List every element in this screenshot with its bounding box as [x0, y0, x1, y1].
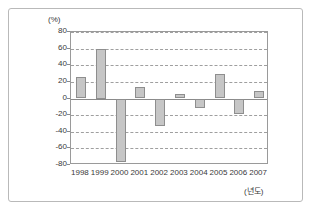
y-tick-label: -40 [45, 127, 67, 135]
bar-1998 [76, 77, 86, 99]
y-tick-mark [67, 31, 70, 32]
y-tick-mark [67, 81, 70, 82]
x-tick-label-2002: 2002 [148, 168, 170, 178]
x-tick-label-1998: 1998 [69, 168, 91, 178]
x-tick-label-2006: 2006 [227, 168, 249, 178]
x-tick-label-2007: 2007 [247, 168, 269, 178]
y-axis-tick-labels: 806040200-20-40-60-80 [44, 31, 67, 164]
x-tick-label-2003: 2003 [168, 168, 190, 178]
bar-1999 [96, 49, 106, 99]
x-tick-label-2001: 2001 [128, 168, 150, 178]
y-tick-label: -60 [45, 143, 67, 151]
y-tick-label: 40 [45, 60, 67, 68]
y-tick-mark [67, 131, 70, 132]
y-axis-unit-label: (%) [48, 15, 60, 24]
x-axis-unit-label: (년도) [244, 185, 263, 196]
x-axis-tick-labels: 1998199920002001200220032004200520062007 [70, 168, 268, 180]
bar-2002 [155, 99, 165, 126]
bar-2006 [234, 99, 244, 115]
gridline [71, 32, 267, 33]
figure-container: (%) 806040200-20-40-60-80 19981999200020… [0, 0, 314, 212]
x-tick-label-2004: 2004 [188, 168, 210, 178]
x-tick-label-1999: 1999 [89, 168, 111, 178]
y-tick-mark [67, 64, 70, 65]
bar-2005 [215, 74, 225, 99]
y-tick-mark [67, 98, 70, 99]
gridline [71, 132, 267, 133]
bar-2007 [254, 91, 264, 98]
x-tick-label-2000: 2000 [109, 168, 131, 178]
y-tick-label: 20 [45, 77, 67, 85]
y-tick-mark [67, 164, 70, 165]
y-tick-label: -80 [45, 160, 67, 168]
bar-2001 [135, 87, 145, 99]
y-tick-label: 80 [45, 27, 67, 35]
x-tick-label-2005: 2005 [208, 168, 230, 178]
bar-2003 [175, 94, 185, 98]
y-tick-label: -20 [45, 110, 67, 118]
y-tick-mark [67, 147, 70, 148]
bar-2000 [116, 99, 126, 162]
bar-2004 [195, 99, 205, 109]
y-tick-label: 60 [45, 44, 67, 52]
gridline [71, 148, 267, 149]
y-tick-label: 0 [45, 94, 67, 102]
y-tick-mark [67, 48, 70, 49]
gridline [71, 115, 267, 116]
y-tick-mark [67, 114, 70, 115]
plot-area [70, 31, 268, 164]
